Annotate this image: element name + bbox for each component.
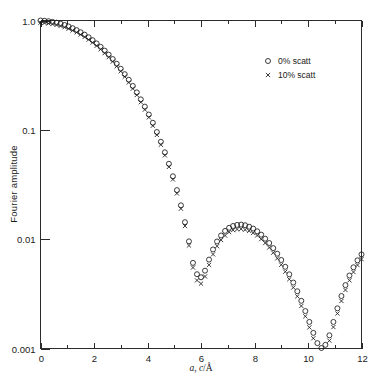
x-tick-label: 10 [303,353,314,364]
legend-label: 0% scatt [278,56,311,66]
y-tick-label: 0.001 [12,344,36,355]
y-axis-label: Fourier amplitude [8,145,19,222]
y-tick-label: 1.0 [22,16,35,27]
x-tick-label: 12 [357,353,368,364]
x-tick-label: 8 [253,353,258,364]
y-tick-label: 0.1 [22,125,35,136]
x-tick-label: 6 [199,353,204,364]
y-tick-label: 0.01 [17,234,36,245]
x-tick-label: 2 [92,353,97,364]
x-tick-label: 0 [39,353,44,364]
fourier-amplitude-scatter-plot: 024681012 1.00.10.010.001 0% scatt10% sc… [0,0,376,384]
x-tick-label: 4 [146,353,151,364]
figure-container: 024681012 1.00.10.010.001 0% scatt10% sc… [0,0,376,384]
legend-label: 10% scatt [278,70,316,80]
x-axis-label: a, c/Å [189,362,212,373]
plot-background [0,0,376,384]
